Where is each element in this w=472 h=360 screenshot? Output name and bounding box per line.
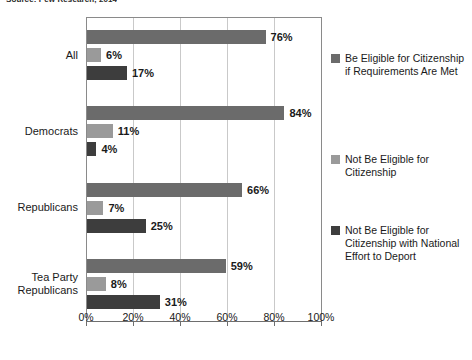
gridline	[180, 18, 181, 321]
bar-value-label: 17%	[132, 66, 154, 80]
legend-label: Not Be Eligible for Citizenship with Nat…	[345, 224, 469, 263]
bar	[87, 106, 284, 120]
category-label: Tea Party Republicans	[17, 271, 78, 296]
legend-swatch	[331, 226, 340, 235]
bar	[87, 48, 101, 62]
bar	[87, 183, 242, 197]
legend-item[interactable]: Not Be Eligible for Citizenship	[331, 153, 469, 179]
x-axis-tick-label: 60%	[216, 311, 237, 323]
x-axis-tick-label: 0%	[78, 311, 93, 323]
legend-item[interactable]: Not Be Eligible for Citizenship with Nat…	[331, 224, 469, 263]
bar-value-label: 4%	[101, 142, 117, 156]
legend-label: Not Be Eligible for Citizenship	[345, 153, 469, 179]
legend-item[interactable]: Be Eligible for Citizenship if Requireme…	[331, 52, 469, 78]
bar	[87, 219, 146, 233]
bar	[87, 277, 106, 291]
legend-label: Be Eligible for Citizenship if Requireme…	[345, 52, 469, 78]
x-axis-tick-label: 80%	[263, 311, 284, 323]
bar-value-label: 25%	[151, 219, 173, 233]
x-axis-line	[86, 321, 322, 322]
x-axis-tick-label: 40%	[169, 311, 190, 323]
bar	[87, 124, 113, 138]
bar-value-label: 59%	[231, 259, 253, 273]
bar	[87, 295, 160, 309]
gridline	[133, 18, 134, 321]
bar-chart: 76%6%17%84%11%4%66%7%25%59%8%31%	[86, 17, 322, 322]
bar	[87, 142, 96, 156]
source-note: Source: Pew Research, 2014	[6, 0, 117, 5]
bar	[87, 66, 127, 80]
x-axis-tick-label: 100%	[308, 311, 335, 323]
category-label: All	[66, 49, 78, 62]
bar-value-label: 11%	[118, 124, 139, 138]
bar	[87, 201, 103, 215]
bar-value-label: 8%	[111, 277, 127, 291]
bar-value-label: 6%	[106, 48, 122, 62]
category-label: Republicans	[17, 201, 78, 214]
plot-top-border	[86, 17, 322, 18]
gridline	[227, 18, 228, 321]
gridline	[274, 18, 275, 321]
bar-value-label: 7%	[108, 201, 124, 215]
plot-right-border	[321, 17, 322, 322]
legend-swatch	[331, 155, 340, 164]
bar-value-label: 66%	[247, 183, 269, 197]
category-label: Democrats	[25, 125, 78, 138]
bar	[87, 30, 266, 44]
legend-swatch	[331, 54, 340, 63]
bar	[87, 259, 226, 273]
bar-value-label: 31%	[165, 295, 187, 309]
x-axis-tick-label: 20%	[122, 311, 143, 323]
bar-value-label: 76%	[271, 30, 293, 44]
bar-value-label: 84%	[289, 106, 311, 120]
